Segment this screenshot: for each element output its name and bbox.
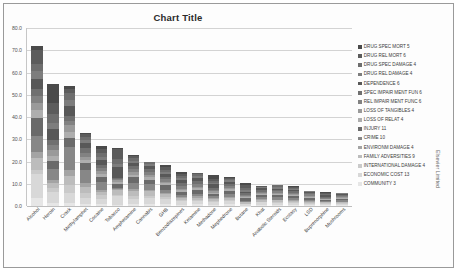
legend-label: CRIME 10 xyxy=(364,135,385,141)
figure-root: Chart Title 0.010.020.030.040.050.060.07… xyxy=(0,0,457,271)
bar-column[interactable] xyxy=(238,28,254,206)
bar-column[interactable] xyxy=(157,28,173,206)
stacked-bar[interactable] xyxy=(80,133,91,206)
legend-label: INTERNATIONAL DAMAGE 4 xyxy=(364,163,425,169)
stacked-bar[interactable] xyxy=(240,183,251,206)
plot-axes: 0.010.020.030.040.050.060.070.080.0 xyxy=(26,28,352,206)
legend-item[interactable]: REL IMPAIR MENT FUNC 6 xyxy=(358,99,436,105)
bar-column[interactable] xyxy=(318,28,334,206)
stacked-bar[interactable] xyxy=(192,173,203,206)
legend-label: LOSS OF TANGIBLES 4 xyxy=(364,108,414,114)
stacked-bar[interactable] xyxy=(31,46,42,206)
stacked-bar[interactable] xyxy=(64,86,75,206)
legend-swatch-icon xyxy=(358,182,362,186)
bar-column[interactable] xyxy=(141,28,157,206)
legend-label: DRUG REL MORT 6 xyxy=(364,53,406,59)
bar-column[interactable] xyxy=(270,28,286,206)
bar-segment xyxy=(31,50,42,63)
stacked-bar[interactable] xyxy=(160,165,171,206)
bar-column[interactable] xyxy=(302,28,318,206)
bar-segment xyxy=(64,147,75,170)
legend-swatch-icon xyxy=(358,173,362,177)
legend-swatch-icon xyxy=(358,146,362,150)
stacked-bar[interactable] xyxy=(96,146,107,206)
legend-item[interactable]: DRUG SPEC MORT 5 xyxy=(358,44,436,50)
legend-item[interactable]: LOSS OF RELAT 4 xyxy=(358,117,436,123)
bar-segment xyxy=(47,103,58,114)
legend-swatch-icon xyxy=(358,45,362,49)
stacked-bar[interactable] xyxy=(47,84,58,206)
bar-segment xyxy=(31,64,42,72)
stacked-bar[interactable] xyxy=(144,162,155,206)
y-axis-tick: 80.0 xyxy=(12,25,26,31)
bar-column[interactable] xyxy=(254,28,270,206)
legend-item[interactable]: INTERNATIONAL DAMAGE 4 xyxy=(358,163,436,169)
x-axis-label: Khat xyxy=(254,206,266,218)
bar-column[interactable] xyxy=(173,28,189,206)
bar-column[interactable] xyxy=(29,28,45,206)
bar-segment xyxy=(64,106,75,116)
bar-column[interactable] xyxy=(77,28,93,206)
legend-swatch-icon xyxy=(358,118,362,122)
bar-column[interactable] xyxy=(45,28,61,206)
stacked-bar[interactable] xyxy=(208,175,219,206)
x-axis-label-cell: Butane xyxy=(237,206,253,266)
legend-item[interactable]: DEPENDENCE 6 xyxy=(358,81,436,87)
legend-item[interactable]: SPEC IMPAIR MENT FUN 6 xyxy=(358,90,436,96)
stacked-bar[interactable] xyxy=(320,192,331,206)
legend-item[interactable]: COMMUNITY 3 xyxy=(358,181,436,187)
bar-segment xyxy=(47,129,58,139)
y-axis-tick: 70.0 xyxy=(12,47,26,53)
legend-label: DRUG SPEC DAMAGE 4 xyxy=(364,62,416,68)
bar-segment xyxy=(64,185,75,192)
bar-column[interactable] xyxy=(286,28,302,206)
bar-segment xyxy=(47,123,58,130)
bar-column[interactable] xyxy=(125,28,141,206)
legend-label: DEPENDENCE 6 xyxy=(364,81,400,87)
chart-legend: DRUG SPEC MORT 5DRUG REL MORT 6DRUG SPEC… xyxy=(358,44,436,190)
legend-label: LOSS OF RELAT 4 xyxy=(364,117,403,123)
bar-series-container xyxy=(27,28,352,206)
legend-item[interactable]: CRIME 10 xyxy=(358,135,436,141)
stacked-bar[interactable] xyxy=(336,193,347,206)
publisher-credit: Elsevier Limited xyxy=(435,150,441,188)
bar-segment xyxy=(96,182,107,190)
legend-item[interactable]: DRUG SPEC DAMAGE 4 xyxy=(358,62,436,68)
bar-column[interactable] xyxy=(334,28,350,206)
legend-item[interactable]: FAMILY ADVERSITIES 9 xyxy=(358,154,436,160)
bar-column[interactable] xyxy=(222,28,238,206)
stacked-bar[interactable] xyxy=(288,186,299,206)
bar-segment xyxy=(47,161,58,169)
stacked-bar[interactable] xyxy=(304,191,315,206)
bar-column[interactable] xyxy=(189,28,205,206)
legend-item[interactable]: LOSS OF TANGIBLES 4 xyxy=(358,108,436,114)
stacked-bar[interactable] xyxy=(224,177,235,206)
stacked-bar[interactable] xyxy=(272,185,283,206)
legend-item[interactable]: ENVIRONM DAMAGE 4 xyxy=(358,145,436,151)
stacked-bar[interactable] xyxy=(128,155,139,206)
x-axis-label-cell: Ecstasy xyxy=(286,206,302,266)
bar-segment xyxy=(47,192,58,203)
legend-swatch-icon xyxy=(358,127,362,131)
stacked-bar[interactable] xyxy=(256,186,267,206)
bar-column[interactable] xyxy=(61,28,77,206)
legend-swatch-icon xyxy=(358,109,362,113)
legend-item[interactable]: DRUG REL MORT 6 xyxy=(358,53,436,59)
stacked-bar[interactable] xyxy=(176,172,187,206)
bar-column[interactable] xyxy=(109,28,125,206)
legend-label: DRUG SPEC MORT 5 xyxy=(364,44,410,50)
legend-swatch-icon xyxy=(358,82,362,86)
bar-segment xyxy=(31,103,42,111)
bar-column[interactable] xyxy=(93,28,109,206)
legend-item[interactable]: DRUG REL DAMAGE 4 xyxy=(358,71,436,77)
bar-segment xyxy=(64,93,75,100)
legend-item[interactable]: ECONOMIC COST 13 xyxy=(358,172,436,178)
stacked-bar[interactable] xyxy=(112,148,123,206)
bar-segment xyxy=(64,138,75,147)
bar-segment xyxy=(64,176,75,185)
y-axis-tick: 20.0 xyxy=(12,159,26,165)
legend-item[interactable]: INJURY 11 xyxy=(358,126,436,132)
bar-column[interactable] xyxy=(206,28,222,206)
bar-segment xyxy=(31,118,42,136)
y-axis-tick: 50.0 xyxy=(12,92,26,98)
